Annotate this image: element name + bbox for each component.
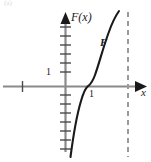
- y-axis-label: F(x): [71, 11, 92, 23]
- y-axis-arrowhead: [61, 12, 71, 24]
- coordinate-plot-svg: [0, 0, 151, 162]
- function-curve-F: [71, 11, 120, 157]
- curve-label-F: F: [100, 37, 107, 48]
- figure-graph-of-F: (a): [0, 0, 151, 162]
- y-tick-label-1: 1: [46, 67, 51, 77]
- x-axis-label: x: [141, 87, 146, 98]
- x-tick-label-1: 1: [89, 89, 94, 99]
